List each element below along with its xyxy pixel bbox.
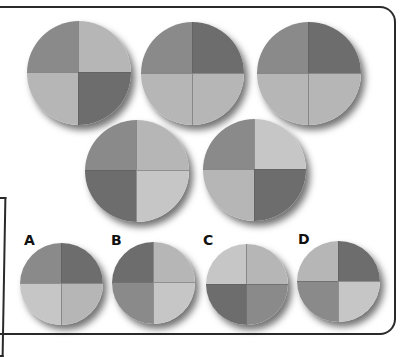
quadrant-bottom-left <box>257 73 309 126</box>
quadrant-bottom-right <box>338 281 381 323</box>
sequence-disc-5 <box>203 119 306 221</box>
quadrant-bottom-right <box>61 283 104 325</box>
quadrant-bottom-left <box>27 72 79 125</box>
option-disc-a[interactable] <box>20 243 103 325</box>
quadrant-bottom-left <box>206 284 247 326</box>
quadrant-top-left <box>20 243 62 284</box>
quadrant-top-left <box>257 22 309 74</box>
quadrant-top-right <box>308 22 361 74</box>
quadrant-bottom-right <box>136 170 189 222</box>
sequence-disc-4 <box>85 120 189 222</box>
quadrant-bottom-left <box>112 282 154 324</box>
quadrant-top-right <box>246 244 288 285</box>
quadrant-bottom-right <box>254 169 307 221</box>
quadrant-bottom-right <box>153 282 196 324</box>
option-disc-b[interactable] <box>112 242 195 324</box>
quadrant-top-right <box>338 241 381 282</box>
quadrant-top-right <box>61 243 104 284</box>
quadrant-top-left <box>27 21 79 73</box>
quadrant-top-left <box>206 244 247 285</box>
quadrant-top-right <box>136 120 189 171</box>
quadrant-bottom-left <box>20 283 62 325</box>
quadrant-top-left <box>85 120 137 171</box>
sequence-disc-2 <box>141 22 244 125</box>
quadrant-top-right <box>78 21 131 73</box>
quadrant-top-left <box>297 241 339 282</box>
quadrant-top-left <box>203 119 255 170</box>
quadrant-bottom-left <box>203 169 255 221</box>
quadrant-bottom-left <box>141 73 193 126</box>
quadrant-top-right <box>153 242 196 283</box>
sequence-disc-3 <box>257 22 361 125</box>
quadrant-bottom-left <box>85 170 137 222</box>
quadrant-bottom-right <box>308 73 361 126</box>
sequence-disc-1 <box>27 21 131 125</box>
quadrant-bottom-right <box>192 73 245 126</box>
quadrant-bottom-right <box>246 284 288 326</box>
quadrant-top-left <box>141 22 193 74</box>
option-disc-c[interactable] <box>206 244 288 325</box>
quadrant-bottom-right <box>78 72 131 125</box>
quadrant-top-right <box>254 119 307 170</box>
option-disc-d[interactable] <box>297 241 380 322</box>
quadrant-bottom-left <box>297 281 339 323</box>
quadrant-top-right <box>192 22 245 74</box>
quadrant-top-left <box>112 242 154 283</box>
